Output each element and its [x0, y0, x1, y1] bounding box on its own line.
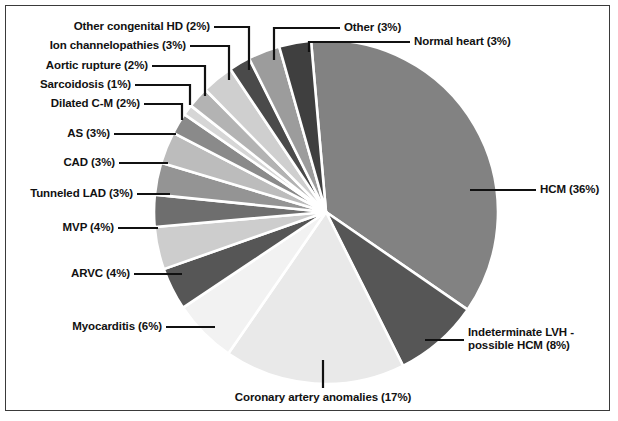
label-mvp: MVP (4%) — [0, 221, 114, 234]
leader-line-aortic-rupture — [152, 66, 205, 96]
leader-line-sarcoidosis — [135, 85, 190, 105]
label-tunneled-lad: Tunneled LAD (3%) — [0, 187, 133, 200]
label-coronary-artery-anomalies: Coronary artery anomalies (17%) — [203, 391, 443, 404]
label-hcm: HCM (36%) — [540, 183, 599, 196]
label-sarcoidosis: Sarcoidosis (1%) — [0, 78, 131, 91]
label-indeterminate-lvh-line1: Indeterminate LVH - — [468, 326, 574, 339]
pie-chart-figure: HCM (36%) Indeterminate LVH - possible H… — [0, 0, 618, 421]
label-other-congenital-hd: Other congenital HD (2%) — [0, 20, 210, 33]
label-as: AS (3%) — [0, 127, 110, 140]
label-normal-heart: Normal heart (3%) — [414, 35, 511, 48]
label-indeterminate-lvh-line2: possible HCM (8%) — [468, 339, 574, 352]
label-myocarditis: Myocarditis (6%) — [0, 320, 162, 333]
label-ion-channelopathies: Ion channelopathies (3%) — [0, 39, 186, 52]
label-arvc: ARVC (4%) — [0, 267, 130, 280]
leader-line-dilated-cm — [144, 104, 182, 120]
label-cad: CAD (3%) — [0, 156, 115, 169]
label-aortic-rupture: Aortic rupture (2%) — [0, 59, 148, 72]
label-dilated-cm: Dilated C-M (2%) — [0, 97, 140, 110]
label-indeterminate-lvh: Indeterminate LVH - possible HCM (8%) — [468, 326, 574, 352]
label-other: Other (3%) — [344, 21, 401, 34]
